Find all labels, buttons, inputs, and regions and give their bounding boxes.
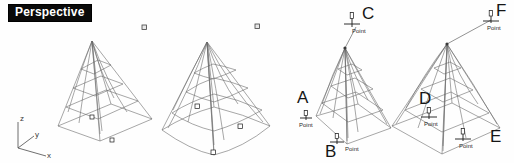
control-point-marker-1 [142,25,147,30]
point-label-c: C [362,5,374,22]
point-caption-d: Point [424,121,438,128]
pyramid-3 [316,27,391,144]
control-point-marker-2 [255,24,260,29]
axis-label-x: x [47,151,51,160]
point-label-e: E [490,128,501,145]
wireframe-scene: z y x [0,0,514,163]
point-label-a: A [297,89,308,106]
axis-label-y: y [35,130,39,139]
point-marker-d [421,107,437,119]
axis-label-z: z [20,114,24,123]
point-caption-f: Point [487,25,501,32]
point-label-f: F [496,2,506,19]
point-marker-a [300,110,312,120]
perspective-viewport[interactable]: Perspective [0,0,514,163]
pyramid-1 [58,41,152,142]
control-point-markers [142,24,260,30]
point-label-b: B [325,143,336,160]
point-label-d: D [419,90,431,107]
point-caption-a: Point [299,122,313,129]
point-marker-c [344,12,360,27]
axis-indicator [18,122,46,156]
pyramid-2 [162,42,270,155]
point-caption-b: Point [345,146,359,153]
point-marker-e [455,128,471,141]
point-caption-e: Point [459,143,473,150]
viewport-label-perspective[interactable]: Perspective [8,4,92,22]
point-caption-c: Point [352,28,366,35]
pyramid-4 [392,20,500,154]
point-markers [300,10,499,144]
